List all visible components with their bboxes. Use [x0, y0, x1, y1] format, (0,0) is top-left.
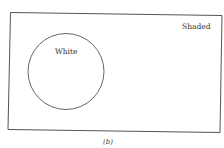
caption: (b) — [103, 138, 113, 146]
venn-diagram: White Shaded (b) — [0, 0, 224, 148]
set-circle — [28, 34, 104, 110]
universe-label: Shaded — [182, 22, 211, 31]
set-label: White — [55, 47, 78, 56]
